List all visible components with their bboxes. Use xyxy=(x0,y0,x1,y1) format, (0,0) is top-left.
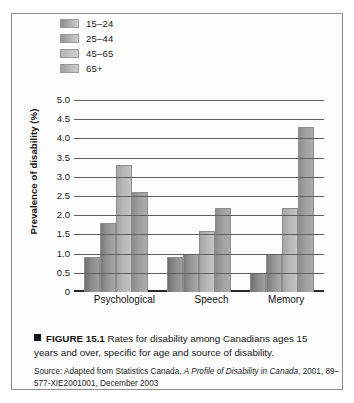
y-axis-tick-label: 0.5 xyxy=(30,267,70,278)
y-axis-tick-label: 0 xyxy=(30,286,70,297)
bar xyxy=(100,223,116,292)
legend-item-2: 45–65 xyxy=(60,46,210,61)
y-axis-tick-label: 1.5 xyxy=(30,228,70,239)
caption-marker-icon xyxy=(34,334,41,341)
legend-item-label: 45–65 xyxy=(86,48,113,59)
legend-item-label: 65+ xyxy=(86,63,103,74)
x-axis-category-label: Psychological xyxy=(94,294,155,305)
gridline xyxy=(74,273,324,274)
bar xyxy=(199,231,215,292)
figure-frame: 15–2425–4445–6565+ Prevalence of disabil… xyxy=(11,13,343,390)
chart-legend: 15–2425–4445–6565+ xyxy=(60,16,210,76)
gridline xyxy=(74,234,324,235)
gridline xyxy=(74,177,324,178)
gridline xyxy=(74,196,324,197)
bar xyxy=(282,208,298,292)
bar xyxy=(167,257,183,292)
figure-caption: FIGURE 15.1 Rates for disability among C… xyxy=(34,332,334,359)
plot-canvas: 00.51.01.52.02.53.03.54.04.55.0 xyxy=(74,100,324,292)
legend-swatch-icon xyxy=(60,64,79,73)
bar xyxy=(298,127,314,292)
caption-figure-number: FIGURE 15.1 xyxy=(46,333,105,344)
gridline xyxy=(74,119,324,120)
gridline xyxy=(74,100,324,101)
source-title: A Profile of Disability in Canada xyxy=(184,367,298,376)
plot-area: Prevalence of disability (%) 00.51.01.52… xyxy=(12,92,344,324)
y-axis-tick-label: 4.0 xyxy=(30,132,70,143)
y-axis-tick-label: 2.0 xyxy=(30,209,70,220)
bar xyxy=(84,257,100,292)
y-axis-tick-label: 3.5 xyxy=(30,152,70,163)
bar xyxy=(215,208,231,292)
y-axis-tick-label: 2.5 xyxy=(30,190,70,201)
x-axis-labels: PsychologicalSpeechMemory xyxy=(74,294,324,305)
gridline xyxy=(74,254,324,255)
bar xyxy=(250,273,266,292)
legend-item-0: 15–24 xyxy=(60,16,210,31)
gridline xyxy=(74,215,324,216)
source-prefix: Source: Adapted from Statistics Canada, xyxy=(34,367,181,376)
y-axis-tick-label: 5.0 xyxy=(30,94,70,105)
legend-item-label: 15–24 xyxy=(86,18,113,29)
gridline xyxy=(74,138,324,139)
x-axis-category-label: Memory xyxy=(268,294,304,305)
bar xyxy=(132,192,148,292)
legend-swatch-icon xyxy=(60,19,79,28)
legend-swatch-icon xyxy=(60,49,79,58)
legend-item-3: 65+ xyxy=(60,61,210,76)
legend-swatch-icon xyxy=(60,34,79,43)
gridline xyxy=(74,158,324,159)
legend-item-1: 25–44 xyxy=(60,31,210,46)
legend-item-label: 25–44 xyxy=(86,33,113,44)
y-axis-tick-label: 4.5 xyxy=(30,113,70,124)
x-axis-category-label: Speech xyxy=(195,294,229,305)
y-axis-tick-label: 1.0 xyxy=(30,248,70,259)
figure-source: Source: Adapted from Statistics Canada, … xyxy=(34,366,340,389)
y-axis-tick-label: 3.0 xyxy=(30,171,70,182)
